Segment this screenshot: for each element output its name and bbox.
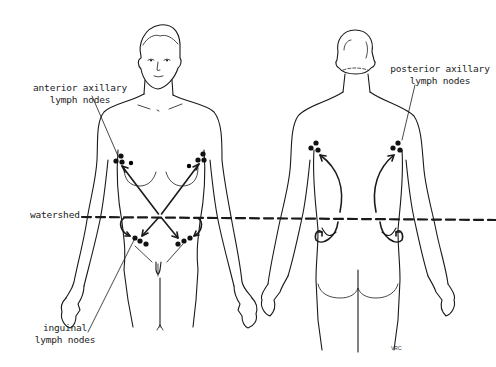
front-figure — [61, 25, 257, 330]
watershed-line — [82, 217, 496, 220]
figure-canvas — [0, 0, 496, 367]
posterior-axillary-label: posterior axillary lymph nodes — [384, 63, 496, 87]
inguinal-pointer — [88, 240, 134, 332]
inguinal-label: inguinal lymph nodes — [30, 322, 100, 346]
back-drainage-arrows — [315, 155, 402, 242]
back-axillary-nodes — [308, 140, 402, 152]
watershed-label: watershed — [30, 209, 80, 221]
front-head — [138, 25, 181, 89]
posterior-axillary-pointer — [402, 85, 415, 140]
anterior-axillary-label: anterior axillary lymph nodes — [18, 82, 142, 106]
artist-signature: VRC — [391, 345, 402, 351]
front-inguinal-nodes — [132, 235, 192, 246]
front-axillary-nodes — [113, 151, 206, 164]
front-drainage-arrows — [121, 164, 202, 238]
lymph-drainage-diagram: anterior axillary lymph nodes posterior … — [0, 0, 496, 367]
